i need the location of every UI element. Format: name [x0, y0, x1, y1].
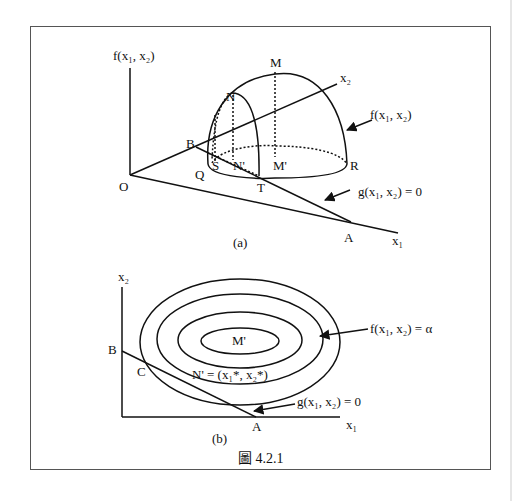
f-axis-label: f(x₁, x₂) [113, 48, 155, 63]
point-M-prime-a: M' [273, 158, 287, 173]
panel-b-labels: x₂ f(x₁, x₂) = α M' B C N' = (x₁*, x₂*) … [108, 269, 432, 446]
origin-O: O [119, 179, 128, 194]
point-M-prime-b: M' [232, 333, 246, 348]
point-B-b: B [108, 342, 117, 357]
point-N: N [226, 89, 236, 104]
contour-label: f(x₁, x₂) = α [370, 321, 432, 336]
panel-a [0, 0, 398, 233]
constraint-arrow-b [254, 404, 295, 411]
x1-axis-label-a: x₁ [392, 233, 403, 248]
point-A-a: A [344, 230, 354, 245]
panel-a-labels: f(x₁, x₂) M x₂ N f(x₁, x₂) B S N' M' R Q… [113, 48, 422, 250]
constraint-label-a: g(x₁, x₂) = 0 [358, 184, 422, 199]
point-N-prime: N' [233, 158, 245, 173]
point-C: C [137, 364, 146, 379]
surface-label: f(x₁, x₂) [370, 107, 412, 122]
figure-caption: 圖 4.2.1 [238, 451, 284, 466]
tangent-point-label: N' = (x₁*, x₂*) [192, 367, 268, 382]
point-Q: Q [195, 167, 205, 182]
constraint-arrow-a [325, 190, 350, 200]
point-R: R [350, 158, 359, 173]
x2-axis-label-b: x₂ [118, 269, 129, 284]
surface-arrow [347, 120, 372, 130]
x1-axis-label-b: x₁ [346, 417, 357, 432]
figure-canvas: f(x₁, x₂) M x₂ N f(x₁, x₂) B S N' M' R Q… [0, 0, 518, 501]
point-S: S [212, 158, 219, 173]
point-M: M [270, 55, 282, 70]
panel-b-label: (b) [212, 431, 227, 446]
contour-arrow [320, 329, 368, 336]
point-T: T [257, 180, 265, 195]
panel-a-label: (a) [233, 235, 247, 250]
constraint-label-b: g(x₁, x₂) = 0 [297, 394, 361, 409]
point-A-b: A [252, 419, 262, 434]
x2-axis-label: x₂ [340, 70, 351, 85]
dome-outline [208, 73, 347, 164]
point-B-a: B [186, 136, 195, 151]
